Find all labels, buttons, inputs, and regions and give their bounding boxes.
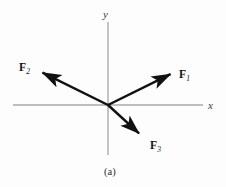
vector-f1-arrow <box>108 74 171 105</box>
vector-label-f3: F3 <box>150 140 161 152</box>
vector-label-f3-base: F <box>150 139 157 151</box>
diagram-canvas <box>0 0 226 187</box>
vector-label-f3-subscript: 3 <box>157 145 161 154</box>
vector-label-f1: F1 <box>179 69 190 81</box>
vector-f2-arrow <box>43 73 109 105</box>
figure-caption: (a) <box>104 167 116 178</box>
vector-f3-arrow <box>108 105 139 133</box>
force-vector-diagram: y x F1 F2 F3 (a) <box>0 0 226 187</box>
vector-label-f2-base: F <box>19 61 26 73</box>
x-axis-label: x <box>208 100 213 111</box>
vector-label-f1-subscript: 1 <box>186 74 190 83</box>
vector-label-f2-subscript: 2 <box>26 67 30 76</box>
vector-label-f1-base: F <box>179 68 186 80</box>
y-axis-label: y <box>103 9 108 20</box>
vector-label-f2: F2 <box>19 62 30 74</box>
